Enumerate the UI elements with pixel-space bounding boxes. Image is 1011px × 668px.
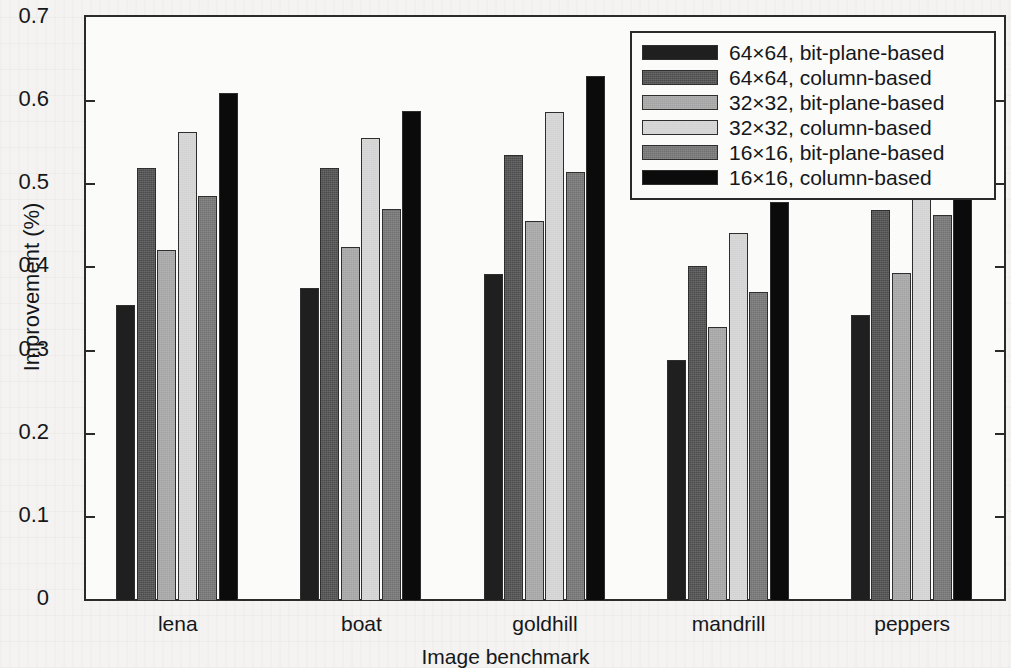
chart-legend: 64×64, bit-plane-based64×64, column-base… [630, 31, 996, 200]
bar [851, 315, 870, 601]
bar [708, 327, 727, 601]
bar [729, 233, 748, 601]
bar-group [300, 17, 423, 601]
y-axis-tick-label: 0.7 [0, 5, 49, 27]
bar [341, 247, 360, 601]
bar [402, 111, 421, 601]
legend-label: 32×32, column-based [729, 116, 932, 140]
legend-label: 16×16, column-based [729, 166, 932, 190]
y-axis-tick-label: 0 [0, 587, 49, 609]
x-axis-tick-label: lena [88, 612, 268, 636]
legend-color-swatch [642, 45, 718, 60]
bar [871, 210, 890, 601]
legend-label: 64×64, column-based [729, 66, 932, 90]
legend-color-swatch [642, 70, 718, 85]
y-axis-label: Improvement (%) [19, 147, 45, 427]
legend-color-swatch [642, 120, 718, 135]
legend-item: 64×64, bit-plane-based [642, 40, 982, 65]
bar [667, 360, 686, 601]
bar [484, 274, 503, 601]
bar [137, 168, 156, 601]
legend-item: 16×16, column-based [642, 165, 982, 190]
bar [320, 168, 339, 601]
bar [770, 202, 789, 601]
legend-color-swatch [642, 170, 718, 185]
bar [912, 164, 931, 601]
legend-color-swatch [642, 95, 718, 110]
bar [178, 132, 197, 601]
bar-group [116, 17, 239, 601]
bar [504, 155, 523, 601]
bar [545, 112, 564, 601]
bar [566, 172, 585, 601]
bar [749, 292, 768, 601]
legend-label: 64×64, bit-plane-based [729, 41, 944, 65]
x-axis-tick-label: boat [271, 612, 451, 636]
legend-item: 32×32, bit-plane-based [642, 90, 982, 115]
y-axis-tick-label: 0.6 [0, 88, 49, 110]
x-axis-tick-label: peppers [822, 612, 1002, 636]
bar [382, 209, 401, 601]
bar [219, 93, 238, 601]
legend-item: 64×64, column-based [642, 65, 982, 90]
bar [525, 221, 544, 601]
bar-chart-figure: 00.10.20.30.40.50.60.7 Improvement (%) l… [0, 0, 1011, 668]
bar [361, 138, 380, 601]
legend-item: 16×16, bit-plane-based [642, 140, 982, 165]
bar [933, 215, 952, 601]
x-axis-tick-label: mandrill [639, 612, 819, 636]
legend-label: 16×16, bit-plane-based [729, 141, 944, 165]
y-axis-tick-label: 0.1 [0, 504, 49, 526]
bar-group [484, 17, 607, 601]
x-axis-label: Image benchmark [0, 645, 1011, 668]
bar [586, 76, 605, 601]
legend-item: 32×32, column-based [642, 115, 982, 140]
legend-label: 32×32, bit-plane-based [729, 91, 944, 115]
x-axis-tick-label: goldhill [455, 612, 635, 636]
bar [198, 196, 217, 601]
bar [300, 288, 319, 601]
bar [892, 273, 911, 601]
legend-color-swatch [642, 145, 718, 160]
bar [157, 250, 176, 601]
bar [116, 305, 135, 601]
bar [688, 266, 707, 601]
